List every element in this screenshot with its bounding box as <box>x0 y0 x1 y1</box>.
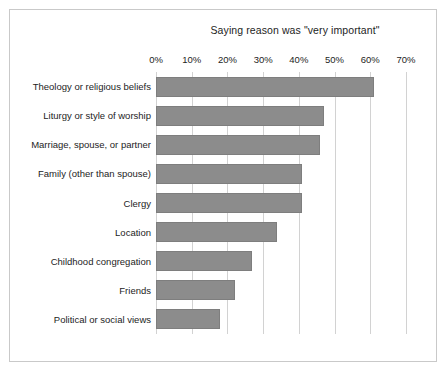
y-axis-category-labels: Theology or religious beliefsLiturgy or … <box>18 72 151 334</box>
category-label: Clergy <box>18 198 151 209</box>
category-label: Theology or religious beliefs <box>18 81 151 92</box>
gridline-50pct <box>335 72 336 334</box>
bar <box>156 164 302 184</box>
category-label: Marriage, spouse, or partner <box>18 139 151 150</box>
category-label: Liturgy or style of worship <box>18 110 151 121</box>
x-axis-tick-labels: 0%10%20%30%40%50%60%70% <box>0 54 447 68</box>
bar <box>156 251 252 271</box>
bar <box>156 309 220 329</box>
chart-title: Saying reason was "very important" <box>150 24 440 36</box>
category-label: Childhood congregation <box>18 256 151 267</box>
category-label: Political or social views <box>18 314 151 325</box>
category-label: Family (other than spouse) <box>18 168 151 179</box>
bar <box>156 135 320 155</box>
category-label: Friends <box>18 285 151 296</box>
plot-area <box>156 72 406 334</box>
gridline-70pct <box>406 72 407 334</box>
bar <box>156 280 235 300</box>
bar <box>156 222 277 242</box>
bar <box>156 77 374 97</box>
chart-figure: Saying reason was "very important" 0%10%… <box>0 0 447 372</box>
gridline-60pct <box>370 72 371 334</box>
category-label: Location <box>18 227 151 238</box>
bar <box>156 193 302 213</box>
bar <box>156 106 324 126</box>
x-tick-label: 70% <box>384 54 428 65</box>
